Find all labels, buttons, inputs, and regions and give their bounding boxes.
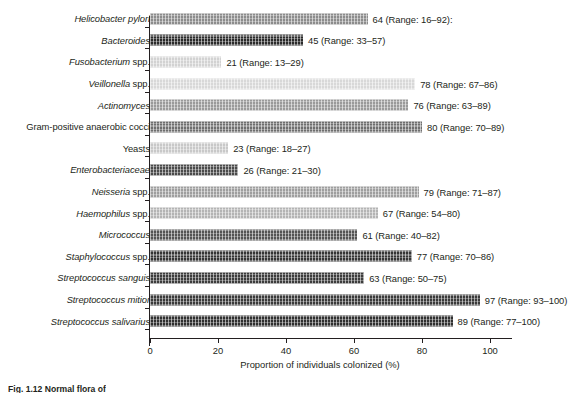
category-label: Enterobacteriaceae [0,164,150,175]
x-axis-tick [422,338,423,343]
bar [150,208,378,219]
bar-and-value: 63 (Range: 50–75) [150,272,447,283]
category-label-italic: Streptococcus sanguis [57,272,150,283]
bar-row: Veillonella spp.78 (Range: 67–86) [0,73,578,95]
x-axis-tick [150,338,151,343]
bar-and-value: 89 (Range: 77–100) [150,316,540,327]
bar-value-label: 67 (Range: 54–80) [383,208,460,219]
x-axis-tick-label: 100 [482,345,498,356]
bar [150,229,357,240]
x-axis-tick [354,338,355,343]
x-axis-title: Proportion of individuals colonized (%) [150,359,490,370]
bar-value-label: 26 (Range: 21–30) [243,164,320,175]
bar [150,316,453,327]
category-label-upright: spp. [130,186,150,197]
category-label-italic: Enterobacteriaceae [70,164,150,175]
x-axis-tick [286,338,287,343]
bar-row: Haemophilus spp.67 (Range: 54–80) [0,202,578,224]
bar-and-value: 77 (Range: 70–86) [150,251,494,262]
bar-value-label: 97 (Range: 93–100) [485,294,568,305]
bar-value-label: 80 (Range: 70–89) [427,121,504,132]
x-axis-line [150,338,490,339]
x-axis-tick-label: 40 [281,345,291,356]
bar-value-label: 77 (Range: 70–86) [417,251,494,262]
category-label-italic: Veillonella [89,78,131,89]
bar-row: Helicobacter pylori64 (Range: 16–92): [0,8,578,30]
figure-bar-chart: Helicobacter pylori64 (Range: 16–92):Bac… [0,0,578,393]
category-label-upright: spp. [130,208,150,219]
x-axis-tick-label: 20 [213,345,223,356]
x-axis-tick-label: 80 [417,345,427,356]
bar-and-value: 45 (Range: 33–57) [150,35,385,46]
bar-and-value: 76 (Range: 63–89) [150,100,491,111]
figure-caption-text: Fig. 1.12 Normal flora of [8,384,106,393]
x-axis-tick [218,338,219,343]
bar [150,100,408,111]
bar-row: Streptococcus mitior97 (Range: 93–100) [0,289,578,311]
bar [150,13,368,24]
category-label: Streptococcus mitior [0,294,150,305]
bar [150,143,228,154]
category-label: Streptococcus sanguis [0,272,150,283]
category-label: Helicobacter pylori [0,13,150,24]
x-axis-tick-label: 0 [147,345,152,356]
category-label-upright: spp. [130,56,150,67]
bar-row: Yeasts23 (Range: 18–27) [0,138,578,160]
bar [150,35,303,46]
bar-row: Bacteroides45 (Range: 33–57) [0,30,578,52]
category-label-italic: Streptococcus salivarius [51,316,150,327]
bar-value-label: 63 (Range: 50–75) [369,272,446,283]
bar-and-value: 64 (Range: 16–92): [150,13,452,24]
category-label: Neisseria spp. [0,186,150,197]
category-label-italic: Haemophilus [76,208,130,219]
bar-and-value: 61 (Range: 40–82) [150,229,440,240]
bar-value-label: 89 (Range: 77–100) [458,316,541,327]
category-label-italic: Streptococcus mitior [67,294,150,305]
bar-row: Gram-positive anaerobic cocci80 (Range: … [0,116,578,138]
category-label: Micrococcus [0,229,150,240]
category-label-italic: Neisseria [92,186,130,197]
bar-row: Fusobacterium spp.21 (Range: 13–29) [0,51,578,73]
category-label-italic: Fusobacterium [69,56,130,67]
bar-row: Actinomyces76 (Range: 63–89) [0,94,578,116]
category-label: Haemophilus spp. [0,208,150,219]
bar [150,186,419,197]
category-label-upright: Gram-positive anaerobic cocci [26,121,150,132]
bar-and-value: 23 (Range: 18–27) [150,143,311,154]
bar [150,164,238,175]
bar-value-label: 64 (Range: 16–92): [373,13,453,24]
bar-value-label: 78 (Range: 67–86) [420,78,497,89]
category-label-upright: spp. [130,78,150,89]
category-label: Streptococcus salivarius [0,316,150,327]
bar-and-value: 80 (Range: 70–89) [150,121,504,132]
bar [150,294,480,305]
bar-row: Staphylococcus spp.77 (Range: 70–86) [0,246,578,268]
bar-row: Micrococcus61 (Range: 40–82) [0,224,578,246]
category-label-italic: Micrococcus [99,229,150,240]
x-axis-tick [490,338,491,343]
bar-value-label: 23 (Range: 18–27) [233,143,310,154]
bar [150,121,422,132]
category-label-upright: spp. [130,251,150,262]
bar-and-value: 79 (Range: 71–87) [150,186,501,197]
bar-and-value: 78 (Range: 67–86) [150,78,498,89]
category-label: Bacteroides [0,35,150,46]
category-label: Veillonella spp. [0,78,150,89]
x-axis-tick-label: 60 [349,345,359,356]
category-label-italic: Actinomyces [98,100,150,111]
category-label-italic: Helicobacter pylori [74,13,150,24]
figure-caption: Fig. 1.12 Normal flora of [8,384,106,393]
bar-and-value: 67 (Range: 54–80) [150,208,460,219]
bar-value-label: 76 (Range: 63–89) [413,100,490,111]
bar-and-value: 97 (Range: 93–100) [150,294,567,305]
category-label: Gram-positive anaerobic cocci [0,121,150,132]
category-label: Actinomyces [0,100,150,111]
bar [150,78,415,89]
category-label: Fusobacterium spp. [0,56,150,67]
bar-row: Streptococcus sanguis63 (Range: 50–75) [0,267,578,289]
category-label: Yeasts [0,143,150,154]
category-label-italic: Staphylococcus [66,251,131,262]
category-label-upright: Yeasts [123,143,150,154]
x-axis-line-extension [490,338,512,339]
bar [150,272,364,283]
